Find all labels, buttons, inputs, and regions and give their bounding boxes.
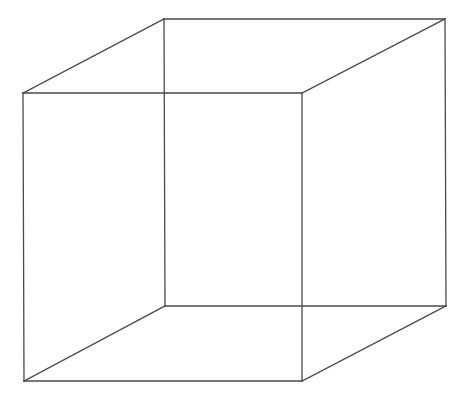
back-face-group [164, 19, 446, 306]
depth-connectors-group [23, 19, 446, 381]
front-left-edge [23, 93, 24, 381]
connector-bottom-right [302, 306, 446, 381]
back-left-edge [164, 19, 165, 306]
connector-top-left [23, 19, 164, 93]
connector-bottom-left [24, 306, 165, 381]
connector-top-right [302, 19, 445, 93]
necker-cube-figure [0, 0, 465, 397]
figure-canvas [0, 0, 465, 397]
front-face-group [23, 93, 302, 381]
back-right-edge [445, 19, 446, 306]
